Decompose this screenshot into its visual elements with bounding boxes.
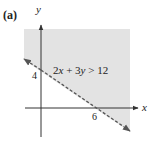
inequality-label: 2x + 3y > 12 xyxy=(53,65,108,76)
relation-sign: > xyxy=(86,64,98,76)
y-intercept-label: 4 xyxy=(32,71,37,81)
x-axis-label: x xyxy=(142,102,147,113)
y-axis-label: y xyxy=(36,4,41,15)
plus-sign: + xyxy=(63,64,75,76)
part-label: (a) xyxy=(3,9,17,21)
constant: 12 xyxy=(97,64,108,76)
shaded-solution-region xyxy=(24,29,130,132)
x-intercept-label: 6 xyxy=(92,112,97,122)
inequality-graph: (a) y x 4 6 2x + 3y > 12 xyxy=(0,0,150,145)
